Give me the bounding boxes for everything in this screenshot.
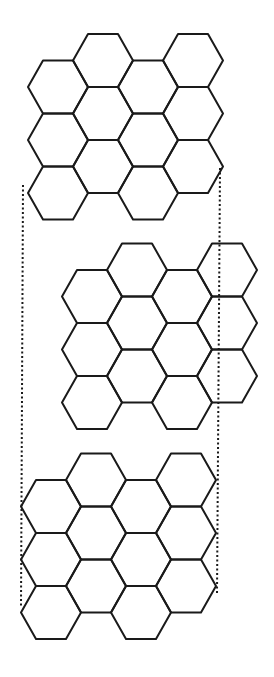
bottom-layer xyxy=(21,454,216,640)
hexagon-cell xyxy=(118,61,178,114)
hexagon-cell xyxy=(152,323,212,376)
hexagon-cell xyxy=(163,87,223,140)
hexagon-cell xyxy=(156,454,216,507)
hexagon-cell xyxy=(28,61,88,114)
hexagon-cell xyxy=(107,297,167,350)
hexagon-cell xyxy=(28,167,88,220)
hexagon-cell xyxy=(21,533,81,586)
hexagon-cell xyxy=(66,454,126,507)
hexagon-cell xyxy=(156,507,216,560)
hexagon-cell xyxy=(28,114,88,167)
hexagon-cell xyxy=(62,270,122,323)
hexagon-cell xyxy=(107,350,167,403)
hexagon-cell xyxy=(62,323,122,376)
hexagon-cell xyxy=(197,350,257,403)
middle-layer xyxy=(62,244,257,430)
lattice-layers xyxy=(21,34,257,639)
hexagon-cell xyxy=(66,507,126,560)
left-alignment-line xyxy=(21,185,23,606)
hexagon-cell xyxy=(111,480,171,533)
hexagon-cell xyxy=(111,533,171,586)
hexagon-cell xyxy=(163,34,223,87)
hexagon-cell xyxy=(73,87,133,140)
hexagon-cell xyxy=(66,560,126,613)
hexagon-cell xyxy=(163,140,223,193)
hexagonal-lattice-figure xyxy=(0,0,274,677)
hexagon-cell xyxy=(197,244,257,297)
alignment-guides xyxy=(21,168,220,606)
hexagon-cell xyxy=(73,34,133,87)
hexagon-cell xyxy=(152,376,212,429)
hexagon-cell xyxy=(111,586,171,639)
hexagon-cell xyxy=(21,480,81,533)
hexagon-cell xyxy=(21,586,81,639)
hexagon-cell xyxy=(118,114,178,167)
hexagon-cell xyxy=(197,297,257,350)
hexagon-cell xyxy=(152,270,212,323)
hexagon-cell xyxy=(73,140,133,193)
hexagon-cell xyxy=(107,244,167,297)
hexagon-cell xyxy=(156,560,216,613)
top-layer xyxy=(28,34,223,220)
hexagon-cell xyxy=(62,376,122,429)
hexagon-cell xyxy=(118,167,178,220)
right-alignment-line xyxy=(217,168,220,594)
